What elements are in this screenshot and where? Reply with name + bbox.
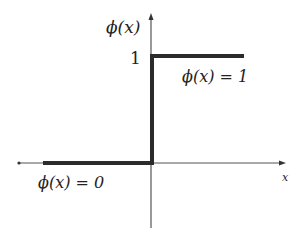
upper-annotation: ϕ(x) = 1	[182, 67, 248, 86]
x-axis-label: x	[282, 171, 289, 184]
x-axis-arrow-right	[279, 161, 286, 166]
step-function-diagram: ϕ(x) 1 ϕ(x) = 1 ϕ(x) = 0 x	[0, 0, 304, 234]
y-axis-label: ϕ(x)	[106, 17, 140, 37]
x-axis-left-end	[17, 161, 20, 164]
lower-annotation: ϕ(x) = 0	[38, 173, 104, 192]
y-axis-arrow-up	[149, 13, 154, 20]
y-tick-label-one: 1	[130, 48, 141, 68]
